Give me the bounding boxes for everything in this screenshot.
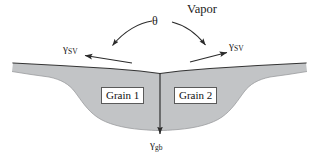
grain-1-label: Grain 1 bbox=[101, 87, 144, 104]
theta-arc-right-half bbox=[172, 22, 206, 45]
theta-arc-left-half bbox=[113, 21, 153, 46]
theta-contact-angle-arc bbox=[113, 21, 206, 46]
surface-tension-arrow-left bbox=[85, 56, 132, 64]
gamma-sv-right-label: γSV bbox=[229, 40, 244, 52]
grain-2-label: Grain 2 bbox=[174, 87, 217, 104]
gamma-sv-left-label: γSV bbox=[63, 43, 78, 55]
surface-tension-arrow-right bbox=[190, 53, 227, 63]
gamma-gb-label: γgb bbox=[150, 139, 163, 151]
gamma-subscript: SV bbox=[234, 44, 244, 53]
vapor-label: Vapor bbox=[187, 3, 217, 16]
gamma-subscript: gb bbox=[155, 143, 163, 152]
theta-angle-label: θ bbox=[152, 15, 158, 27]
sv-right-vector bbox=[190, 53, 227, 63]
gamma-subscript: SV bbox=[68, 47, 78, 56]
figure-root: Vapor θ γSV γSV γgb Grain 1 Grain 2 bbox=[0, 0, 319, 163]
sv-left-vector bbox=[85, 56, 132, 64]
